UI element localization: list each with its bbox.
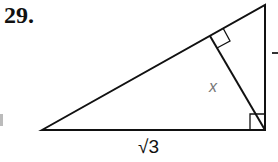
altitude-line — [210, 36, 265, 130]
cropped-glyph-fragment — [272, 52, 278, 54]
cropped-glyph-fragment — [0, 114, 3, 126]
base-label: √3 — [138, 136, 159, 158]
altitude-label: x — [209, 78, 217, 96]
right-triangle — [42, 5, 265, 130]
